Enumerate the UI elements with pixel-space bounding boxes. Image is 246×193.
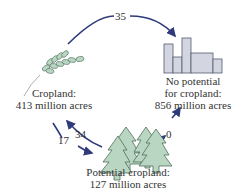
potential-label: Potential cropland: 127 million acres [73,166,183,190]
potential-value: 127 million acres [73,178,183,190]
no-potential-title-1: No potential [148,75,238,87]
cropland-title: Cropland: [4,87,104,99]
flow-value-cropland-to-potential: 17 [58,135,69,146]
flow-value-potential-to-cropland: 34 [75,129,86,140]
no-potential-value: 856 million acres [148,99,238,111]
potential-title: Potential cropland: [73,166,183,178]
cropland-label: Cropland: 413 million acres [4,87,104,111]
cropland-value: 413 million acres [4,99,104,111]
flow-value-cropland-to-no-potential: 35 [115,11,126,22]
no-potential-label: No potential for cropland: 856 million a… [148,75,238,111]
no-potential-title-2: for cropland: [148,87,238,99]
flow-value-potential-to-no-potential: 0 [166,129,172,140]
buildings-icon [164,38,222,73]
